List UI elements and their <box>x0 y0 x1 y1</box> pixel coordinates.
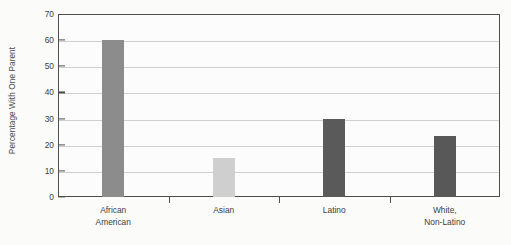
x-axis-category-label: White,Non-Latino <box>390 205 501 228</box>
y-tick-label: 60 <box>32 35 54 45</box>
x-label-line-2: Non-Latino <box>390 217 501 229</box>
y-axis-title-text: Percentage With One Parent <box>9 46 18 153</box>
y-tick-mark <box>58 170 65 171</box>
x-tick-mark <box>279 197 280 203</box>
y-tick-label: 10 <box>32 166 54 176</box>
y-tick-label: 50 <box>32 61 54 71</box>
y-tick-label: 40 <box>32 87 54 97</box>
y-tick-mark <box>58 144 65 145</box>
x-label-line-1: African <box>100 205 126 215</box>
y-tick-mark <box>58 92 65 93</box>
x-axis-labels: AfricanAmericanAsianLatinoWhite,Non-Lati… <box>58 205 500 243</box>
y-tick-mark <box>58 66 65 67</box>
y-axis-title: Percentage With One Parent <box>2 0 24 200</box>
x-tick-mark <box>169 197 170 203</box>
bar <box>102 40 124 197</box>
y-axis-ticks: 010203040506070 <box>28 14 54 197</box>
y-tick-mark <box>58 40 65 41</box>
x-axis-category-label: AfricanAmerican <box>58 205 169 228</box>
y-tick-label: 30 <box>32 114 54 124</box>
y-tick-mark <box>58 196 65 197</box>
bar <box>434 136 456 197</box>
bar-chart-figure: Percentage With One Parent 0102030405060… <box>0 0 511 245</box>
bar <box>213 158 235 197</box>
bar <box>323 119 345 197</box>
x-axis-category-label: Latino <box>279 205 390 217</box>
y-tick-label: 0 <box>32 192 54 202</box>
x-label-line-1: Asian <box>213 205 234 215</box>
x-axis-category-label: Asian <box>169 205 280 217</box>
x-label-line-2: American <box>58 217 169 229</box>
x-label-line-1: White, <box>433 205 457 215</box>
x-label-line-1: Latino <box>323 205 346 215</box>
bars-group <box>58 14 500 197</box>
y-tick-mark <box>58 118 65 119</box>
y-tick-label: 70 <box>32 9 54 19</box>
x-tick-mark <box>390 197 391 203</box>
y-tick-label: 20 <box>32 140 54 150</box>
